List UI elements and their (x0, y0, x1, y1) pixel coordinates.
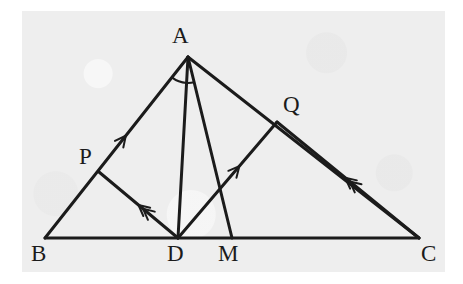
vertex-label-p: P (79, 145, 92, 168)
angle-marks-layer (172, 77, 194, 83)
angle-BAD (172, 77, 187, 83)
side-BA (45, 57, 188, 238)
geometry-figure: ABCDMPQ (0, 0, 463, 284)
cevian-AM (188, 57, 232, 238)
cevian-AD (178, 57, 188, 238)
vertex-label-a: A (172, 24, 189, 47)
direction-ticks-layer (115, 136, 362, 220)
angle-DAM (187, 82, 195, 83)
vertex-label-d: D (167, 242, 184, 265)
segments-layer (45, 57, 419, 238)
vertex-label-m: M (218, 242, 238, 265)
vertex-label-c: C (421, 242, 436, 265)
vertex-label-q: Q (283, 93, 300, 116)
segment-QC (277, 122, 419, 238)
vertex-label-b: B (31, 242, 46, 265)
